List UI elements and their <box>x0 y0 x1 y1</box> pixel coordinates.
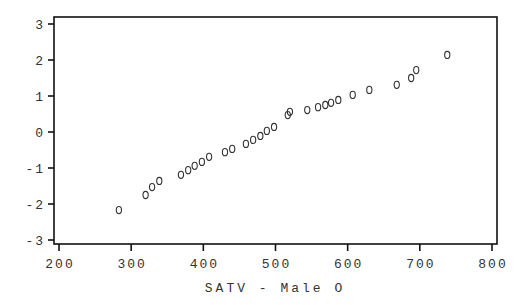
x-tick-label: 500 <box>262 257 291 272</box>
x-axis-title: SATV - Male O <box>205 281 345 296</box>
data-point-marker <box>336 96 341 103</box>
data-points <box>116 51 450 213</box>
data-point-marker <box>230 145 235 152</box>
x-tick-label: 700 <box>406 257 435 272</box>
x-tick-label: 300 <box>117 257 146 272</box>
y-tick-label: -2 <box>25 198 45 213</box>
data-point-marker <box>258 132 263 139</box>
data-point-marker <box>350 91 355 98</box>
y-tick-label: 0 <box>35 126 45 141</box>
data-point-marker <box>116 207 121 214</box>
data-point-marker <box>328 99 333 106</box>
y-tick-label: 1 <box>35 90 45 105</box>
data-point-marker <box>445 51 450 58</box>
data-point-marker <box>149 183 154 190</box>
data-point-marker <box>251 136 256 143</box>
y-tick-label: -3 <box>25 234 45 249</box>
data-point-marker <box>394 81 399 88</box>
data-point-marker <box>414 66 419 73</box>
data-point-marker <box>199 158 204 165</box>
y-tick-label: -1 <box>25 162 45 177</box>
data-point-marker <box>222 149 227 156</box>
data-point-marker <box>186 167 191 174</box>
x-tick-label: 800 <box>478 257 507 272</box>
data-point-marker <box>264 127 269 134</box>
data-point-marker <box>305 106 310 113</box>
data-point-marker <box>243 140 248 147</box>
x-axis: 200300400500600700800 <box>45 244 507 272</box>
data-point-marker <box>178 171 183 178</box>
data-point-marker <box>143 191 148 198</box>
x-tick-label: 200 <box>45 257 74 272</box>
data-point-marker <box>409 74 414 81</box>
data-point-marker <box>323 101 328 108</box>
data-point-marker <box>367 86 372 93</box>
y-tick-label: 3 <box>35 18 45 33</box>
x-tick-label: 400 <box>190 257 219 272</box>
data-point-marker <box>192 162 197 169</box>
data-point-marker <box>315 104 320 111</box>
y-tick-label: 2 <box>35 54 45 69</box>
y-axis: 3210-1-2-3 <box>25 18 54 249</box>
scatter-chart: 3210-1-2-3 200300400500600700800 SATV - … <box>0 0 528 305</box>
data-point-marker <box>207 153 212 160</box>
x-tick-label: 600 <box>334 257 363 272</box>
data-point-marker <box>157 177 162 184</box>
data-point-marker <box>271 123 276 130</box>
